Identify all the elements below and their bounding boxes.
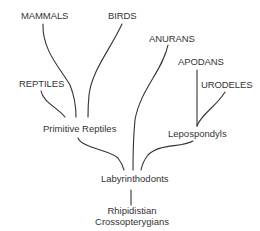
node-reptiles: REPTILES [19, 79, 64, 89]
node-labyrinthodonts: Labyrinthodonts [101, 174, 169, 184]
edge-mammals [43, 24, 76, 117]
node-mammals: MAMMALS [21, 11, 68, 21]
node-apodans: APODANS [178, 57, 224, 67]
node-urodeles: URODELES [201, 80, 252, 90]
node-primitive-reptiles: Primitive Reptiles [43, 124, 116, 134]
edge-anurans [133, 45, 168, 170]
tree-edges [0, 0, 260, 231]
edge-primitive-reptiles [78, 138, 124, 170]
edge-reptiles [41, 91, 65, 117]
node-birds: BIRDS [108, 11, 137, 21]
node-rhipidistian-line1: Rhipidistian [98, 206, 166, 216]
edge-urodeles [197, 92, 225, 126]
node-anurans: ANURANS [149, 34, 195, 44]
node-lepospondyls: Lepospondyls [168, 129, 227, 139]
phylogeny-diagram: MAMMALS BIRDS ANURANS APODANS URODELES R… [0, 0, 260, 231]
edge-lepospondyls [141, 141, 193, 170]
edge-birds [88, 24, 122, 117]
node-rhipidistian-line2: Crossopterygians [90, 217, 174, 227]
